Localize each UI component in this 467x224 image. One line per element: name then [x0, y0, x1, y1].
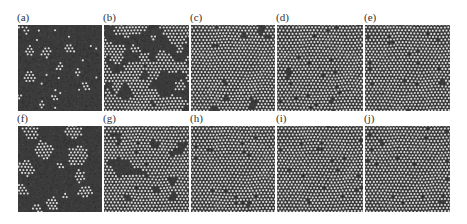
particle-snapshot-image [18, 126, 102, 212]
particle-snapshot-image [191, 126, 275, 212]
panel-label: (g) [103, 113, 116, 124]
particle-snapshot-image [104, 126, 189, 212]
panel-label: (c) [190, 12, 202, 23]
panel-label: (e) [364, 12, 376, 23]
panel-label: (a) [17, 12, 29, 23]
panel-label: (i) [276, 113, 286, 124]
particle-snapshot-image [191, 25, 275, 111]
particle-snapshot-image [277, 126, 363, 212]
particle-snapshot-image [365, 126, 450, 212]
panel-label: (d) [276, 12, 289, 23]
panel-label: (h) [190, 113, 203, 124]
panel-label: (b) [103, 12, 116, 23]
panel-label: (f) [17, 113, 28, 124]
particle-snapshot-image [365, 25, 450, 111]
panel-label: (j) [364, 113, 374, 124]
particle-snapshot-image [104, 25, 189, 111]
particle-snapshot-image [18, 25, 102, 111]
particle-snapshot-image [277, 25, 363, 111]
